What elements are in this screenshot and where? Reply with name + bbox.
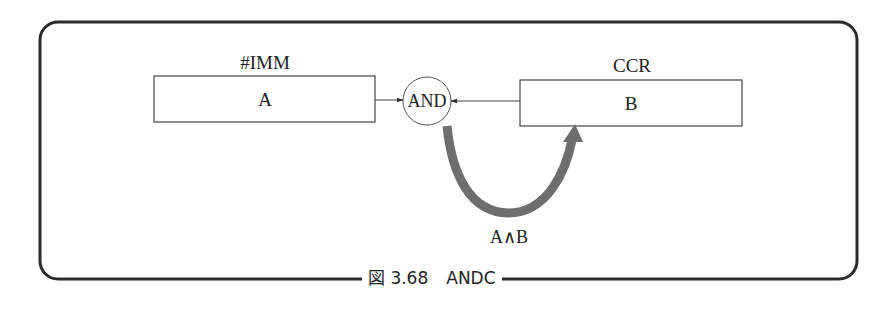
dest-box-header: CCR (613, 56, 651, 75)
dest-box-content: B (625, 94, 638, 113)
diagram-canvas (0, 0, 896, 312)
caption-title: ANDC (446, 268, 495, 288)
and-operator-label: AND (408, 92, 447, 110)
figure-caption: 図 3.68ANDC (362, 270, 502, 287)
caption-number: 図 3.68 (368, 268, 428, 288)
source-box-content: A (258, 90, 272, 109)
result-arrowhead-icon (563, 124, 583, 142)
result-arrow-body (447, 126, 572, 213)
result-arrow-label: A∧B (490, 228, 528, 246)
source-box-header: #IMM (240, 53, 290, 72)
